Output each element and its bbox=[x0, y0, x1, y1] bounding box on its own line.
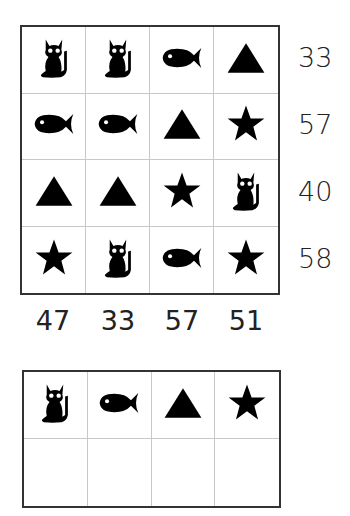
triangle-icon bbox=[159, 101, 205, 151]
fish-icon bbox=[31, 101, 77, 151]
key-symbol-cell bbox=[24, 372, 88, 439]
col-sum-1: 47 bbox=[21, 307, 85, 334]
fish-icon bbox=[96, 380, 142, 430]
fish-icon bbox=[159, 235, 205, 285]
triangle-icon bbox=[31, 168, 77, 218]
cat-icon bbox=[223, 168, 269, 218]
puzzle-grid bbox=[20, 25, 280, 295]
key-answer-cell[interactable] bbox=[24, 439, 88, 506]
triangle-icon bbox=[160, 380, 206, 430]
grid-cell bbox=[214, 94, 278, 161]
grid-cell bbox=[150, 227, 214, 294]
key-answer-cell[interactable] bbox=[88, 439, 152, 506]
star-icon bbox=[224, 380, 270, 430]
triangle-icon bbox=[95, 168, 141, 218]
key-answer-cell[interactable] bbox=[215, 439, 279, 506]
row-sum-3: 40 bbox=[298, 178, 338, 205]
cat-icon bbox=[31, 35, 77, 85]
grid-cell bbox=[214, 27, 278, 94]
grid-cell bbox=[150, 160, 214, 227]
grid-cell bbox=[22, 227, 86, 294]
col-sum-2: 33 bbox=[86, 307, 150, 334]
key-symbol-cell bbox=[152, 372, 216, 439]
grid-cell bbox=[22, 27, 86, 94]
grid-cell bbox=[86, 94, 150, 161]
star-icon bbox=[223, 235, 269, 285]
row-sum-1: 33 bbox=[298, 44, 338, 71]
grid-cell bbox=[22, 160, 86, 227]
row-sum-2: 57 bbox=[298, 111, 338, 138]
grid-cell bbox=[150, 94, 214, 161]
grid-cell bbox=[214, 227, 278, 294]
star-icon bbox=[159, 168, 205, 218]
col-sum-3: 57 bbox=[150, 307, 214, 334]
key-symbol-cell bbox=[88, 372, 152, 439]
grid-cell bbox=[86, 27, 150, 94]
col-sum-4: 51 bbox=[214, 307, 278, 334]
grid-cell bbox=[86, 160, 150, 227]
star-icon bbox=[223, 101, 269, 151]
key-answer-cell[interactable] bbox=[152, 439, 216, 506]
cat-icon bbox=[95, 35, 141, 85]
key-symbol-cell bbox=[215, 372, 279, 439]
grid-cell bbox=[22, 94, 86, 161]
grid-cell bbox=[86, 227, 150, 294]
cat-icon bbox=[95, 235, 141, 285]
grid-cell bbox=[214, 160, 278, 227]
row-sum-4: 58 bbox=[298, 245, 338, 272]
grid-cell bbox=[150, 27, 214, 94]
fish-icon bbox=[159, 35, 205, 85]
cat-icon bbox=[32, 380, 78, 430]
triangle-icon bbox=[223, 35, 269, 85]
answer-key-grid bbox=[22, 370, 281, 508]
fish-icon bbox=[95, 101, 141, 151]
star-icon bbox=[31, 235, 77, 285]
